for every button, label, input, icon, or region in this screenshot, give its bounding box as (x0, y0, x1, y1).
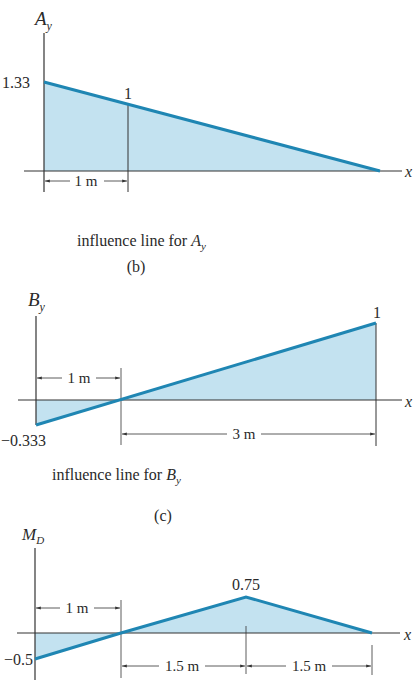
panel-b-influence-ay (24, 33, 402, 192)
panel-c-part-label: (c) (154, 507, 172, 525)
influence-lines-diagram: Ay 1.33 1 x 1 m influence line for Ay (b… (0, 0, 417, 689)
panel-c-value-origin: −0.333 (1, 432, 46, 449)
panel-b-y-axis-label: Ay (33, 8, 53, 33)
panel-d-y-axis-label: MD (21, 525, 44, 546)
panel-b-value-1m: 1 (124, 85, 132, 102)
panel-c-y-axis-label: By (28, 289, 46, 314)
panel-d-x-axis-label: x (403, 626, 411, 643)
panel-b-caption: influence line for Ay (77, 232, 206, 252)
panel-d-dim-label-1: 1 m (66, 600, 89, 616)
panel-b-x-axis-label: x (404, 163, 412, 180)
panel-b-part-label: (b) (127, 258, 146, 276)
panel-c-dim-label-2: 3 m (233, 426, 256, 442)
panel-d-dim-label-3: 1.5 m (292, 658, 327, 674)
panel-d-value-peak: 0.75 (232, 576, 260, 593)
panel-b-value-origin: 1.33 (2, 74, 30, 91)
panel-c-value-end: 1 (373, 304, 381, 321)
panel-c-caption: influence line for By (52, 466, 181, 486)
panel-b-dim-label: 1 m (75, 173, 98, 189)
panel-c-dim-label-1: 1 m (68, 370, 91, 386)
panel-d-value-origin: −0.5 (4, 651, 33, 668)
panel-c-x-axis-label: x (404, 393, 412, 410)
panel-d-dim-label-2: 1.5 m (165, 658, 200, 674)
panel-d-fill-positive (121, 597, 372, 633)
